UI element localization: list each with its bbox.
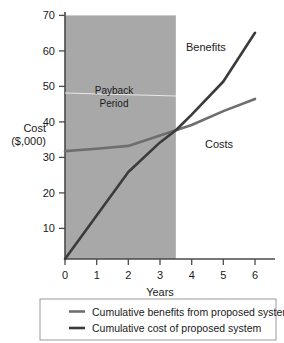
x-tick-label-6: 6 <box>252 269 258 281</box>
cost-benefit-chart: 10 20 30 40 50 60 70 0 1 2 3 4 5 6 Years… <box>0 0 284 343</box>
x-tick-label-0: 0 <box>62 269 68 281</box>
x-tick-label-1: 1 <box>94 269 100 281</box>
plot-label-benefits: Benefits <box>186 41 226 53</box>
legend-label-costs: Cumulative cost of proposed system <box>92 322 261 334</box>
y-axis-title-line2: ($,000) <box>11 135 46 147</box>
x-axis-title: Years <box>146 286 174 298</box>
y-tick-label-60: 60 <box>43 45 55 57</box>
x-tick-label-5: 5 <box>220 269 226 281</box>
y-tick-label-30: 30 <box>43 151 55 163</box>
payback-period-shading <box>65 15 176 259</box>
y-tick-label-70: 70 <box>43 9 55 21</box>
plot-label-costs: Costs <box>205 138 234 150</box>
x-tick-label-2: 2 <box>125 269 131 281</box>
x-tick-label-4: 4 <box>189 269 195 281</box>
y-tick-label-20: 20 <box>43 187 55 199</box>
x-axis-ticks <box>65 259 255 265</box>
legend-label-benefits: Cumulative benefits from proposed system <box>92 306 284 318</box>
payback-period-label-line1: Payback <box>95 85 134 96</box>
y-tick-label-10: 10 <box>43 222 55 234</box>
payback-period-label-line2: Period <box>100 98 129 109</box>
x-tick-label-3: 3 <box>157 269 163 281</box>
chart-svg: 10 20 30 40 50 60 70 0 1 2 3 4 5 6 Years… <box>0 0 284 343</box>
y-axis-ticks <box>59 15 65 228</box>
y-axis-title-line1: Cost <box>23 122 46 134</box>
y-tick-label-50: 50 <box>43 80 55 92</box>
